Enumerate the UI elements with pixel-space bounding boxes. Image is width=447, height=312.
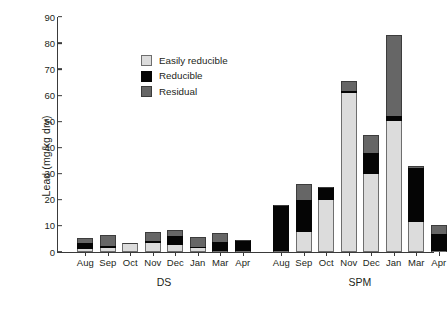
x-axis-tick-mark <box>326 252 327 256</box>
y-axis-tick-label: 0 <box>50 247 58 257</box>
x-axis-tick-label: Oct <box>319 258 334 268</box>
x-axis-tick-label: Apr <box>431 258 446 268</box>
y-axis-tick-mark <box>58 199 62 200</box>
bar-segment-residual <box>145 232 161 242</box>
bar-segment-reducible <box>212 242 228 252</box>
bar-segment-residual <box>431 225 447 234</box>
bar-ds-aug <box>77 238 93 252</box>
bar-segment-reducible <box>296 200 312 233</box>
bar-ds-mar <box>212 233 228 252</box>
y-axis-tick: 40 <box>44 143 58 153</box>
y-axis-tick: 0 <box>50 247 58 257</box>
y-axis-tick-mark <box>58 69 62 70</box>
bar-ds-sep <box>100 235 116 252</box>
bar-segment-residual <box>212 233 228 242</box>
bar-spm-oct <box>318 187 334 252</box>
bar-segment-easily <box>296 232 312 252</box>
bar-segment-easily <box>408 222 424 252</box>
legend-swatch-icon <box>141 55 152 66</box>
bar-segment-reducible <box>167 236 183 246</box>
x-axis-tick-mark <box>243 252 244 256</box>
bar-spm-jan <box>386 35 402 252</box>
x-axis-tick-mark <box>371 252 372 256</box>
legend-item-label: Reducible <box>159 71 203 81</box>
x-axis-tick-label: Oct <box>123 258 138 268</box>
y-axis-tick: 90 <box>44 12 58 22</box>
bar-ds-nov <box>145 232 161 252</box>
x-axis-tick-label: Aug <box>77 258 94 268</box>
bar-ds-oct <box>122 243 138 252</box>
bar-spm-dec <box>363 135 379 253</box>
bar-segment-easily <box>122 243 138 252</box>
x-axis-group-label-ds: DS <box>157 277 172 288</box>
y-axis-tick-label: 90 <box>44 12 58 22</box>
legend-item-residual: Residual <box>141 86 228 97</box>
x-axis-tick-label: Sep <box>295 258 312 268</box>
y-axis-tick-mark <box>58 16 62 17</box>
y-axis-tick-mark <box>58 173 62 174</box>
bar-segment-residual <box>100 235 116 246</box>
y-axis-tick-mark <box>58 251 62 252</box>
x-axis-tick-label: Jan <box>190 258 205 268</box>
bar-segment-reducible <box>318 187 334 200</box>
legend-item-label: Easily reducible <box>159 56 228 66</box>
legend-swatch-icon <box>141 71 152 82</box>
y-axis-title: Lead (mg/kg dry) <box>40 116 52 197</box>
bar-segment-residual <box>386 35 402 116</box>
x-axis-tick-label: Mar <box>408 258 424 268</box>
x-axis-group-label-spm: SPM <box>349 277 372 288</box>
bar-segment-reducible <box>363 153 379 174</box>
x-axis-tick-label: Mar <box>212 258 228 268</box>
legend-item-easily: Easily reducible <box>141 55 228 66</box>
y-axis-tick-label: 30 <box>44 169 58 179</box>
bar-segment-reducible <box>77 243 93 250</box>
x-axis-tick-label: Nov <box>340 258 357 268</box>
y-axis-tick: 50 <box>44 117 58 127</box>
bar-segment-easily <box>318 200 334 252</box>
y-axis-tick: 10 <box>44 221 58 231</box>
y-axis-tick: 70 <box>44 64 58 74</box>
bar-segment-reducible <box>235 240 251 252</box>
y-axis-tick-mark <box>58 121 62 122</box>
x-axis-tick-label: Nov <box>144 258 161 268</box>
x-axis-tick-mark <box>439 252 440 256</box>
x-axis-tick-mark <box>108 252 109 256</box>
bar-segment-easily <box>363 174 379 252</box>
x-axis-tick-mark <box>416 252 417 256</box>
y-axis-tick: 20 <box>44 195 58 205</box>
bar-segment-residual <box>341 81 357 91</box>
bar-spm-aug <box>273 205 289 252</box>
bar-spm-nov <box>341 81 357 252</box>
y-axis-tick-label: 70 <box>44 64 58 74</box>
y-axis-tick: 30 <box>44 169 58 179</box>
legend-swatch-icon <box>141 86 152 97</box>
y-axis-tick-mark <box>58 147 62 148</box>
x-axis-tick-label: Dec <box>363 258 380 268</box>
y-axis-tick-label: 20 <box>44 195 58 205</box>
bar-segment-residual <box>190 237 206 247</box>
legend-item-label: Residual <box>159 87 197 97</box>
bar-spm-sep <box>296 184 312 252</box>
x-axis-tick-mark <box>175 252 176 256</box>
bar-segment-easily <box>386 121 402 252</box>
y-axis-tick-label: 80 <box>44 38 58 48</box>
x-axis-tick-label: Jan <box>386 258 401 268</box>
bar-segment-reducible <box>431 234 447 252</box>
x-axis-tick-mark <box>220 252 221 256</box>
x-axis-tick-label: Dec <box>167 258 184 268</box>
x-axis-tick-mark <box>198 252 199 256</box>
x-axis-tick-mark <box>281 252 282 256</box>
bar-segment-reducible <box>408 168 424 222</box>
legend-item-reducible: Reducible <box>141 71 228 82</box>
y-axis-tick: 80 <box>44 38 58 48</box>
plot-area: 0102030405060708090 AugSepOctNovDecJanMa… <box>57 17 434 253</box>
y-axis-tick-mark <box>58 225 62 226</box>
bar-segment-residual <box>363 135 379 153</box>
chart-legend: Easily reducibleReducibleResidual <box>141 55 228 102</box>
bar-ds-dec <box>167 230 183 252</box>
y-axis-tick-mark <box>58 95 62 96</box>
x-axis-tick-label: Sep <box>99 258 116 268</box>
bar-segment-residual <box>296 184 312 200</box>
x-axis-tick-label: Apr <box>235 258 250 268</box>
